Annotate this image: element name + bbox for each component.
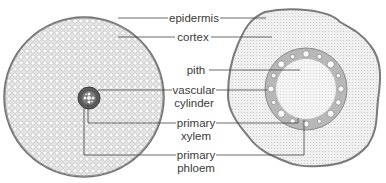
right-pith	[276, 59, 336, 119]
xylem-vessel	[336, 100, 341, 105]
label-primary-xylem-line1: primary	[177, 117, 216, 129]
xylem-vessel	[278, 61, 285, 68]
xylem-vessel	[317, 54, 322, 59]
left-vascular-cylinder	[78, 87, 100, 109]
xylem-vessel	[271, 73, 276, 78]
xylem-vessel	[268, 86, 274, 92]
xylem-vessel	[272, 100, 276, 104]
xylem-vessel	[317, 119, 321, 123]
xylem-vessel	[290, 55, 294, 59]
xylem-vessel	[278, 110, 285, 117]
label-primary-xylem-line2: xylem	[181, 130, 211, 142]
label-vascular-cylinder-line2: cylinder	[174, 97, 214, 109]
label-primary-phloem-line2: phloem	[177, 162, 215, 174]
label-epidermis: epidermis	[169, 12, 219, 24]
label-cortex: cortex	[177, 31, 209, 43]
xylem-vessel	[303, 51, 309, 57]
label-pith: pith	[187, 64, 206, 76]
xylem-vessel	[338, 86, 344, 92]
right-vascular-cylinder	[265, 48, 347, 130]
xylem-vessel	[327, 110, 334, 117]
xylem-vessel	[327, 61, 334, 68]
xylem-vessel	[336, 73, 340, 77]
label-primary-phloem-line1: primary	[177, 149, 216, 161]
label-vascular-cylinder-line1: vascular	[173, 84, 216, 96]
labels: epidermis cortex pith vascular cylinder …	[169, 12, 219, 174]
root-cross-section-diagram: epidermis cortex pith vascular cylinder …	[0, 0, 386, 183]
